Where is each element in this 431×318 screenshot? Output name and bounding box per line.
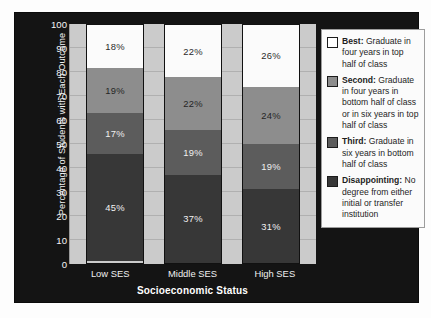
legend-label-third: Third: Graduate in six years in bottom h…: [342, 136, 419, 170]
legend-label-second: Second: Graduate in four years in bottom…: [342, 75, 419, 131]
x-axis-ticks: Low SES Middle SES High SES: [69, 268, 316, 279]
legend-title-best: Best:: [342, 36, 364, 46]
segment-third: 17%: [87, 113, 143, 153]
stacked-bar-high-ses[interactable]: 26% 24% 19% 31%: [242, 24, 300, 264]
x-axis-title: Socioeconomic Status: [69, 285, 316, 296]
chart-legend: Best: Graduate in four years in top half…: [321, 29, 425, 228]
legend-title-disappointing: Disappointing:: [342, 175, 402, 185]
segment-second: 19%: [87, 68, 143, 113]
segment-third: 19%: [243, 144, 299, 189]
plot-area: 18% 19% 17% 45% 22% 22% 19% 37% 26% 24% …: [69, 24, 316, 264]
stacked-bar-middle-ses[interactable]: 22% 22% 19% 37%: [164, 24, 222, 264]
y-tick-50: 50: [56, 139, 67, 150]
legend-swatch-second: [327, 76, 338, 87]
legend-label-best: Best: Graduate in four years in top half…: [342, 36, 419, 70]
y-tick-100: 100: [51, 19, 67, 30]
y-tick-80: 80: [56, 67, 67, 78]
legend-item-second[interactable]: Second: Graduate in four years in bottom…: [327, 75, 419, 131]
legend-item-best[interactable]: Best: Graduate in four years in top half…: [327, 36, 419, 70]
legend-swatch-third: [327, 137, 338, 148]
bar-group: 18% 19% 17% 45% 22% 22% 19% 37% 26% 24% …: [70, 24, 316, 264]
y-tick-20: 20: [56, 211, 67, 222]
segment-disappointing: 31%: [243, 189, 299, 263]
segment-best: 18%: [87, 25, 143, 68]
legend-title-third: Third:: [342, 136, 366, 146]
segment-second: 24%: [243, 87, 299, 144]
chart-page: Percentage of Students with Each Outcome…: [0, 0, 431, 318]
x-tick-low-ses: Low SES: [75, 268, 145, 279]
y-axis-ticks: 100 90 80 70 60 50 40 30 20 10 0: [33, 24, 67, 264]
segment-second: 22%: [165, 77, 221, 129]
segment-third: 19%: [165, 130, 221, 175]
x-tick-middle-ses: Middle SES: [157, 268, 227, 279]
segment-best: 22%: [165, 25, 221, 77]
y-tick-60: 60: [56, 115, 67, 126]
legend-item-third[interactable]: Third: Graduate in six years in bottom h…: [327, 136, 419, 170]
legend-title-second: Second:: [342, 75, 376, 85]
segment-best: 26%: [243, 25, 299, 87]
legend-swatch-disappointing: [327, 176, 338, 187]
y-tick-40: 40: [56, 163, 67, 174]
stacked-bar-low-ses[interactable]: 18% 19% 17% 45%: [86, 24, 144, 264]
chart-frame: Percentage of Students with Each Outcome…: [14, 12, 419, 303]
y-tick-0: 0: [62, 259, 67, 270]
y-tick-70: 70: [56, 91, 67, 102]
x-tick-high-ses: High SES: [240, 268, 310, 279]
segment-disappointing: 45%: [87, 154, 143, 261]
legend-label-disappointing: Disappointing: No degree from either ini…: [342, 175, 419, 220]
legend-swatch-best: [327, 37, 338, 48]
y-tick-30: 30: [56, 187, 67, 198]
y-tick-90: 90: [56, 43, 67, 54]
y-tick-10: 10: [56, 235, 67, 246]
segment-disappointing: 37%: [165, 175, 221, 263]
legend-item-disappointing[interactable]: Disappointing: No degree from either ini…: [327, 175, 419, 220]
